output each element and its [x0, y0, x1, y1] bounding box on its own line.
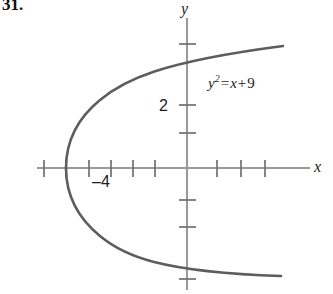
parabola-upper-branch [66, 46, 283, 168]
figure-container: 31. y x [0, 0, 333, 294]
equation-lhs-variable: y [208, 75, 215, 91]
x-tick-label-negative-4: –4 [92, 174, 110, 190]
equation-plus-sign: + [237, 75, 247, 91]
equation-lhs-exponent: 2 [215, 73, 220, 84]
equation-rhs-constant: 9 [247, 75, 255, 91]
graph-plot-area [0, 0, 333, 294]
curve-equation-label: y2=x+9 [208, 76, 255, 91]
y-axis-label: y [181, 1, 188, 17]
x-axis-label: x [314, 159, 321, 175]
y-tick-label-2: 2 [159, 98, 168, 114]
equation-equals-sign: = [220, 75, 230, 91]
equation-rhs-variable: x [230, 75, 237, 91]
